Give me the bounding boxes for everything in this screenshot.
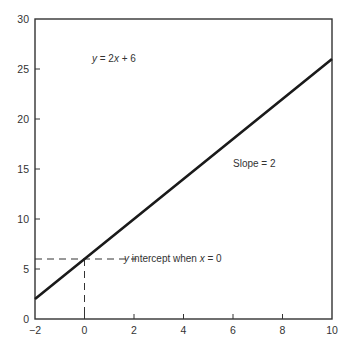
x-tick-label: 6 (230, 324, 236, 336)
x-axis: −20246810 (29, 314, 338, 336)
slope-label: Slope = 2 (233, 158, 276, 169)
x-tick-label: 2 (131, 324, 137, 336)
y-tick-label: 5 (23, 263, 29, 275)
plot-area (35, 19, 332, 319)
y-tick-label: 10 (17, 213, 29, 225)
x-tick-label: 0 (82, 324, 88, 336)
y-tick-label: 20 (17, 113, 29, 125)
equation-label: y = 2x + 6 (91, 53, 136, 64)
chart: 051015202530 −20246810 y = 2x + 6Slope =… (0, 0, 354, 354)
x-tick-label: 8 (280, 324, 286, 336)
axes-frame (35, 19, 332, 319)
x-tick-label: 4 (181, 324, 187, 336)
x-tick-label: 10 (326, 324, 338, 336)
y-tick-label: 15 (17, 163, 29, 175)
x-tick-label: −2 (29, 324, 41, 336)
y-tick-label: 25 (17, 63, 29, 75)
y-tick-label: 30 (17, 13, 29, 25)
intercept-label: y intercept when x = 0 (123, 253, 222, 264)
y-axis: 051015202530 (17, 13, 40, 325)
